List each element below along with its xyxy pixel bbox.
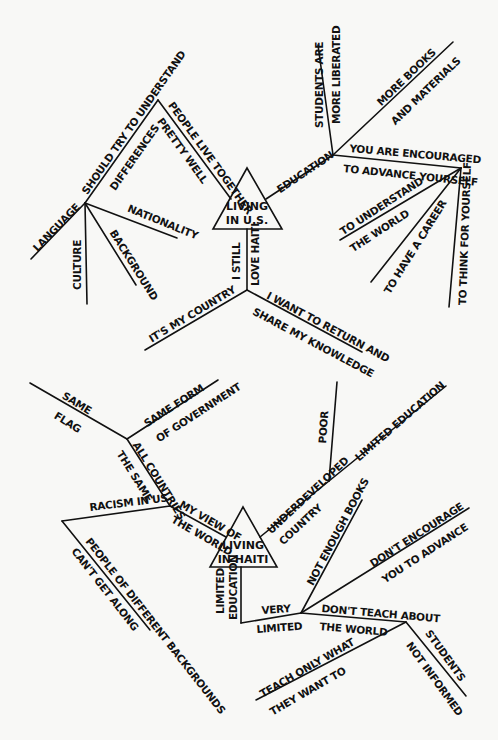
- concept-map-page: LIVING IN U.S. PEOPLE LIVE TOGETHER PRET…: [0, 0, 498, 740]
- map-lines: [0, 0, 498, 740]
- us-center-line2: IN U.S.: [222, 214, 272, 228]
- label-culture: CULTURE: [72, 240, 83, 290]
- label-very: VERY: [261, 603, 291, 616]
- label-more-liberated: MORE LIBERATED: [331, 26, 342, 124]
- label-education-haiti: EDUCATION: [228, 554, 239, 620]
- label-poor: POOR: [317, 411, 330, 444]
- haiti-center-line2: IN HAITI: [214, 553, 272, 567]
- label-love-haiti: LOVE HAITI: [250, 223, 261, 286]
- label-limited: LIMITED: [215, 568, 226, 614]
- label-students-are: STUDENTS ARE: [314, 42, 325, 128]
- label-i-still: I STILL: [231, 243, 242, 280]
